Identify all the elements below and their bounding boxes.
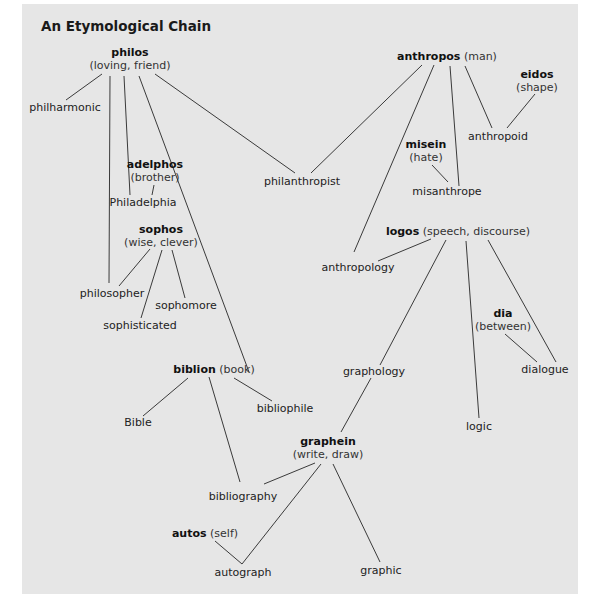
link-graphein-autograph bbox=[242, 464, 321, 564]
word-philanthropist: philanthropist bbox=[264, 175, 340, 188]
root-meaning: (shape) bbox=[516, 81, 558, 94]
link-eidos-anthropoid bbox=[507, 94, 535, 128]
word-anthropology: anthropology bbox=[322, 261, 395, 274]
root-word: graphein bbox=[293, 435, 363, 448]
word-philosopher: philosopher bbox=[80, 287, 145, 300]
link-autos-autograph bbox=[215, 541, 242, 564]
root-word: dia bbox=[475, 307, 531, 320]
root-word: anthropos bbox=[397, 50, 460, 63]
link-biblion-bibliography bbox=[209, 377, 240, 482]
root-meaning: (brother) bbox=[127, 171, 183, 184]
word-philharmonic: philharmonic bbox=[29, 101, 101, 114]
root-logos: logos (speech, discourse) bbox=[386, 225, 530, 238]
link-philos-philharmonic bbox=[66, 74, 102, 100]
word-dialogue: dialogue bbox=[521, 363, 568, 376]
root-sophos: sophos (wise, clever) bbox=[124, 223, 198, 249]
link-biblion-bible bbox=[143, 378, 188, 416]
root-word: autos bbox=[172, 527, 207, 540]
link-graphology-graphein bbox=[341, 378, 371, 432]
root-meaning: (write, draw) bbox=[293, 448, 363, 461]
link-adelphos-philadelphia bbox=[152, 185, 154, 195]
word-bible: Bible bbox=[124, 416, 151, 429]
root-word: sophos bbox=[124, 223, 198, 236]
root-meaning: (hate) bbox=[406, 151, 447, 164]
root-dia: dia (between) bbox=[475, 307, 531, 333]
root-meaning: (book) bbox=[219, 363, 254, 376]
link-logos-graphology bbox=[380, 240, 446, 365]
root-biblion: biblion (book) bbox=[173, 363, 254, 376]
word-graphic: graphic bbox=[360, 564, 401, 577]
root-adelphos: adelphos (brother) bbox=[127, 158, 183, 184]
link-misein-misanthrope bbox=[432, 165, 448, 182]
word-logic: logic bbox=[466, 420, 492, 433]
word-anthropoid: anthropoid bbox=[468, 130, 528, 143]
word-philadelphia: Philadelphia bbox=[109, 196, 176, 209]
root-anthropos: anthropos (man) bbox=[397, 50, 497, 63]
root-autos: autos (self) bbox=[172, 527, 238, 540]
root-meaning: (speech, discourse) bbox=[423, 225, 530, 238]
root-word: misein bbox=[406, 138, 447, 151]
root-meaning: (wise, clever) bbox=[124, 236, 198, 249]
word-sophisticated: sophisticated bbox=[103, 319, 176, 332]
root-philos: philos (loving, friend) bbox=[89, 46, 170, 72]
link-anthropos-misanthrope bbox=[450, 66, 459, 186]
word-autograph: autograph bbox=[215, 566, 272, 579]
word-graphology: graphology bbox=[343, 365, 405, 378]
word-bibliography: bibliography bbox=[209, 490, 278, 503]
root-word: eidos bbox=[516, 68, 558, 81]
link-graphein-graphic bbox=[333, 464, 380, 562]
link-dia-dialogue bbox=[505, 334, 537, 362]
link-logos-anthropology bbox=[378, 239, 431, 261]
root-meaning: (man) bbox=[464, 50, 497, 63]
connector-lines bbox=[0, 0, 600, 610]
word-misanthrope: misanthrope bbox=[412, 185, 481, 198]
link-biblion-bibliophile bbox=[234, 378, 272, 401]
root-word: logos bbox=[386, 225, 419, 238]
word-bibliophile: bibliophile bbox=[257, 402, 314, 415]
link-philos-philosopher bbox=[109, 76, 110, 283]
word-sophomore: sophomore bbox=[155, 299, 217, 312]
link-logos-dialogue bbox=[488, 240, 556, 362]
root-misein: misein (hate) bbox=[406, 138, 447, 164]
root-word: biblion bbox=[173, 363, 215, 376]
root-eidos: eidos (shape) bbox=[516, 68, 558, 94]
root-graphein: graphein (write, draw) bbox=[293, 435, 363, 461]
root-meaning: (loving, friend) bbox=[89, 59, 170, 72]
link-sophos-sophomore bbox=[172, 250, 185, 298]
root-word: philos bbox=[89, 46, 170, 59]
root-meaning: (self) bbox=[210, 527, 238, 540]
link-anthropos-anthropoid bbox=[465, 66, 492, 128]
root-word: adelphos bbox=[127, 158, 183, 171]
link-sophos-philosopher bbox=[119, 249, 150, 286]
root-meaning: (between) bbox=[475, 320, 531, 333]
